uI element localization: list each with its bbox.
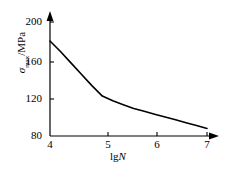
chart-figure: σmax/MPa lgN 200 160 120 80 4 5 6 7 bbox=[0, 0, 233, 173]
y-tick-label-80: 80 bbox=[16, 130, 42, 141]
x-axis-prefix: lg bbox=[110, 150, 119, 162]
y-tick-label-160: 160 bbox=[16, 56, 42, 67]
y-tick-label-200: 200 bbox=[16, 16, 42, 27]
y-axis-symbol: σ bbox=[15, 68, 27, 73]
x-tick-label-7: 7 bbox=[200, 139, 214, 150]
sn-curve-line bbox=[50, 41, 207, 128]
y-axis-unit: /MPa bbox=[15, 32, 27, 56]
x-tick-label-4: 4 bbox=[43, 139, 57, 150]
y-axis-title: σmax/MPa bbox=[15, 17, 32, 89]
x-axis-symbol: N bbox=[119, 150, 126, 162]
x-tick-label-6: 6 bbox=[150, 139, 164, 150]
x-axis-title: lgN bbox=[88, 150, 148, 162]
y-tick-label-120: 120 bbox=[16, 93, 42, 104]
axes-group bbox=[47, 11, 219, 139]
x-tick-label-5: 5 bbox=[101, 139, 115, 150]
y-axis-arrow-icon bbox=[47, 11, 54, 21]
